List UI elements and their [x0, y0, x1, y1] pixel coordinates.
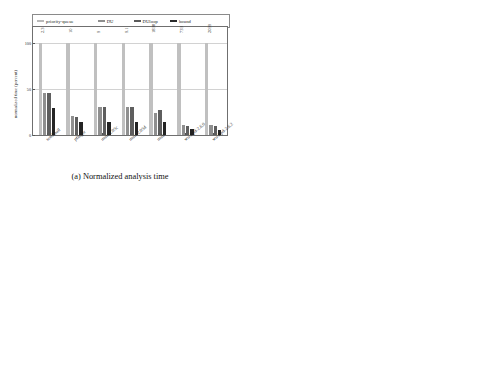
legend-item-duloop: DUloop: [134, 19, 158, 24]
bar-value-annotation: 2099: [207, 24, 212, 33]
legend-label: priority-queue: [46, 19, 74, 24]
bar-value-annotation: 9.1: [124, 27, 129, 33]
legend-swatch-icon: [134, 20, 141, 23]
bar-group: [33, 27, 61, 135]
panel-a-normalized-analysis-time: priority-queue DU DUloop bound normalize…: [0, 0, 240, 188]
bar-priority-queue: [122, 43, 125, 135]
legend-label: bound: [179, 19, 191, 24]
bar-group: [116, 27, 144, 135]
legend-swatch-icon: [98, 20, 105, 23]
legend-item-du: DU: [98, 19, 114, 24]
legend-item-priority-queue: priority-queue: [37, 19, 74, 24]
bar-group: [144, 27, 172, 135]
bar-du: [209, 125, 212, 135]
bar-priority-queue: [205, 43, 208, 135]
y-axis-tick-label: 0: [17, 133, 31, 138]
bar-du: [43, 93, 46, 135]
bar-group: [88, 27, 116, 135]
bar-priority-queue: [39, 43, 42, 135]
legend-item-bound: bound: [170, 19, 191, 24]
figure-sheet: priority-queue DU DUloop bound normalize…: [0, 0, 480, 377]
bar-duloop: [130, 107, 133, 135]
bar-du: [154, 113, 157, 135]
bar-value-annotation: 9: [96, 31, 101, 33]
y-axis-tick-label: 50: [17, 87, 31, 92]
legend-swatch-icon: [170, 20, 177, 23]
panel-d-normalized-memory-usage: normalized memory usage (percent) 809010…: [240, 189, 480, 377]
bar-duloop: [158, 110, 161, 135]
panel-b-normalized-bb-visits: normalized BB-visits (percent) 05010015k…: [240, 0, 480, 188]
bar-value-annotation: 2.3: [40, 27, 45, 33]
bar-duloop: [103, 107, 106, 135]
bar-du: [182, 125, 185, 135]
y-axis-tick-mark: [33, 135, 35, 136]
bar-du: [71, 116, 74, 135]
bar-group: [61, 27, 89, 135]
y-axis-tick-label: 100: [17, 41, 31, 46]
bar-value-annotation: 10: [68, 29, 73, 34]
bar-value-annotation: 733: [179, 26, 184, 33]
bar-value-annotation: 1838: [151, 24, 156, 33]
legend-label: DUloop: [143, 19, 158, 24]
panel-c-efficiency: efficiency (percent) 020406080100sendmai…: [0, 189, 240, 377]
bar-priority-queue: [94, 43, 97, 135]
bar-group: [199, 27, 227, 135]
bar-duloop: [47, 93, 50, 135]
legend-swatch-icon: [37, 20, 44, 23]
bar-du: [126, 107, 129, 135]
legend-label: DU: [107, 19, 114, 24]
y-axis-label: normalized time (percent): [13, 70, 18, 118]
bar-priority-queue: [149, 43, 152, 135]
bar-group: [172, 27, 200, 135]
panel-caption-a: (a) Normalized analysis time: [0, 172, 240, 181]
bar-priority-queue: [177, 43, 180, 135]
bar-priority-queue: [66, 43, 69, 135]
bar-du: [98, 107, 101, 135]
plot-area-a: 0501002.3sendmail10pfinger9mutt-2.05c9.1…: [32, 26, 228, 136]
